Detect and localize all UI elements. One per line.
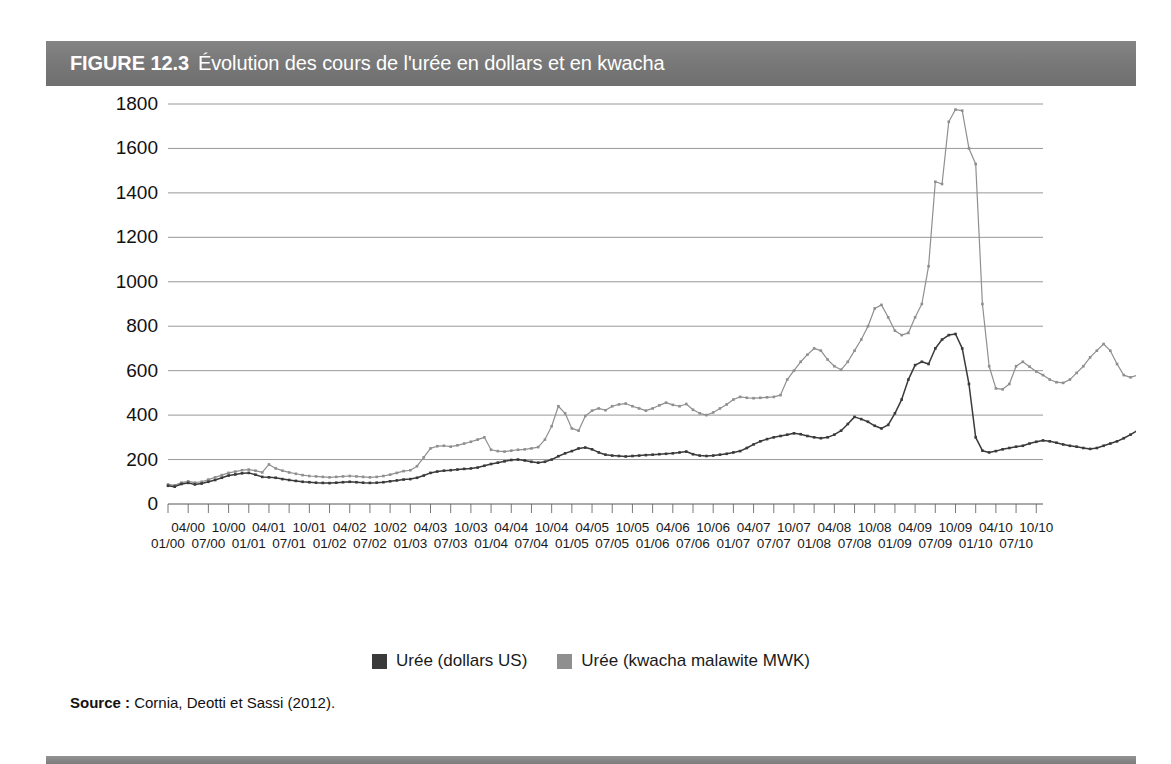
x-tick-label-upper: 10/03	[454, 520, 488, 535]
series-marker	[927, 265, 930, 268]
series-marker	[517, 448, 520, 451]
series-marker	[645, 454, 648, 457]
series-marker	[1109, 349, 1112, 352]
x-tick-label-upper: 04/02	[333, 520, 367, 535]
series-marker	[672, 452, 675, 455]
series-marker	[456, 444, 459, 447]
series-marker	[537, 461, 540, 464]
series-marker	[820, 349, 823, 352]
figure-container: FIGURE 12.3 Évolution des cours de l'uré…	[46, 41, 1136, 719]
series-marker	[416, 476, 419, 479]
figure-header-text: FIGURE 12.3 Évolution des cours de l'uré…	[70, 41, 665, 86]
y-tick-label: 400	[126, 404, 158, 425]
series-marker	[322, 482, 325, 485]
series-marker	[705, 455, 708, 458]
series-marker	[295, 472, 298, 475]
series-marker	[934, 347, 937, 350]
series-marker	[806, 435, 809, 438]
x-tick-label-upper: 04/05	[575, 520, 609, 535]
series-marker	[672, 404, 675, 407]
series-marker	[853, 416, 856, 419]
series-marker	[355, 481, 358, 484]
series-marker	[584, 446, 587, 449]
series-marker	[887, 424, 890, 427]
series-marker	[833, 433, 836, 436]
series-marker	[860, 418, 863, 421]
series-marker	[624, 402, 627, 405]
series-marker	[409, 478, 412, 481]
series-marker	[712, 411, 715, 414]
series-marker	[328, 482, 331, 485]
figure-title: Évolution des cours de l'urée en dollars…	[198, 52, 665, 75]
series-marker	[692, 453, 695, 456]
series-marker	[597, 451, 600, 454]
series-marker	[961, 347, 964, 350]
series-marker	[1035, 440, 1038, 443]
series-marker	[624, 455, 627, 458]
series-marker	[544, 460, 547, 463]
series-marker	[1001, 388, 1004, 391]
series-marker	[214, 479, 217, 482]
series-marker	[261, 471, 264, 474]
series-marker	[712, 454, 715, 457]
x-tick-label-lower: 01/01	[232, 536, 266, 551]
x-tick-label-lower: 01/08	[797, 536, 831, 551]
series-marker	[631, 405, 634, 408]
figure-number: FIGURE 12.3	[70, 52, 189, 75]
series-marker	[530, 447, 533, 450]
series-marker	[503, 460, 506, 463]
series-marker	[281, 478, 284, 481]
series-marker	[665, 401, 668, 404]
series-marker	[1028, 442, 1031, 445]
series-marker	[719, 407, 722, 410]
series-marker	[981, 303, 984, 306]
series-marker	[974, 436, 977, 439]
x-tick-label-lower: 07/04	[515, 536, 549, 551]
series-marker	[322, 476, 325, 479]
series-marker	[1048, 440, 1051, 443]
series-marker	[1102, 343, 1105, 346]
series-marker	[665, 452, 668, 455]
series-marker	[402, 470, 405, 473]
x-tick-label-upper: 10/10	[1019, 520, 1053, 535]
series-marker	[1015, 445, 1018, 448]
x-tick-label-lower: 01/06	[636, 536, 670, 551]
y-tick-label: 0	[147, 493, 158, 514]
series-marker	[1035, 370, 1038, 373]
series-marker	[449, 469, 452, 472]
series-marker	[1022, 360, 1025, 363]
series-marker	[295, 480, 298, 483]
series-marker	[221, 474, 224, 477]
series-marker	[766, 396, 769, 399]
series-marker	[1028, 365, 1031, 368]
x-tick-label-lower: 01/02	[313, 536, 347, 551]
y-tick-label: 600	[126, 360, 158, 381]
series-marker	[503, 450, 506, 453]
series-marker	[577, 447, 580, 450]
series-marker	[799, 433, 802, 436]
series-marker	[409, 469, 412, 472]
figure-header-band: FIGURE 12.3 Évolution des cours de l'uré…	[46, 41, 1136, 86]
x-tick-label-upper: 10/06	[696, 520, 730, 535]
series-marker	[557, 405, 560, 408]
series-marker	[362, 481, 365, 484]
x-tick-label-lower: 01/04	[474, 536, 508, 551]
series-marker	[887, 316, 890, 319]
series-marker	[873, 424, 876, 427]
series-marker	[288, 479, 291, 482]
series-marker	[301, 480, 304, 483]
series-marker	[315, 481, 318, 484]
series-marker	[914, 364, 917, 367]
series-marker	[187, 482, 190, 485]
series-marker	[826, 358, 829, 361]
series-marker	[840, 429, 843, 432]
series-marker	[564, 452, 567, 455]
series-marker	[651, 453, 654, 456]
series-marker	[1048, 378, 1051, 381]
series-marker	[550, 425, 553, 428]
x-tick-label-upper: 04/01	[252, 520, 286, 535]
series-marker	[463, 442, 466, 445]
series-marker	[867, 420, 870, 423]
series-marker	[342, 475, 345, 478]
series-marker	[947, 120, 950, 123]
